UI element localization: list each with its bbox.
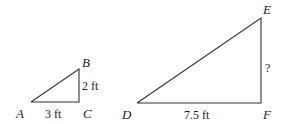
side-ef-unknown: ? xyxy=(265,61,270,75)
similar-triangles-diagram: A B C 3 ft 2 ft D E F 7.5 ft ? xyxy=(0,0,286,124)
vertex-d-label: D xyxy=(121,107,132,122)
triangle-abc-edges xyxy=(31,69,79,102)
vertex-b-label: B xyxy=(82,55,90,70)
triangle-def-edges xyxy=(137,18,261,103)
vertex-f-label: F xyxy=(262,107,272,122)
vertex-a-label: A xyxy=(15,106,24,121)
side-ac-length: 3 ft xyxy=(45,107,62,121)
vertex-e-label: E xyxy=(262,2,271,17)
side-df-length: 7.5 ft xyxy=(184,108,210,122)
small-triangle-abc: A B C 3 ft 2 ft xyxy=(15,55,99,121)
vertex-c-label: C xyxy=(83,106,92,121)
side-bc-length: 2 ft xyxy=(82,79,99,93)
large-triangle-def: D E F 7.5 ft ? xyxy=(121,2,272,122)
